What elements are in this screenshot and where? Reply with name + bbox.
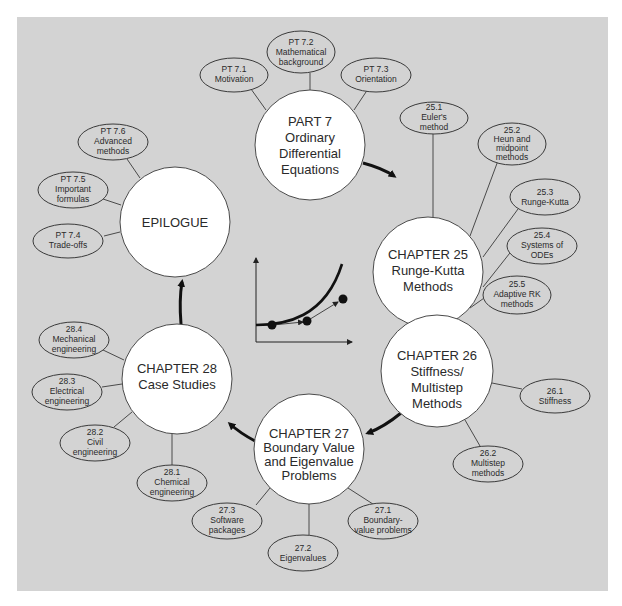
sub-node-pt7-5[interactable]: PT 7.5 Important formulas [38,172,108,208]
sub-node-label: PT 7.2 [289,37,314,47]
sub-node-label: Mathematical [276,47,327,57]
sub-node-label: background [279,57,324,67]
sub-node-label: 25.3 [537,187,554,197]
node-label-line: Methods [403,279,453,294]
sub-node-pt7-2[interactable]: PT 7.2 Mathematical background [267,31,335,73]
sub-node-label: Systems of [521,240,564,250]
ode-part-overview-diagram: PART 7 Ordinary Differential Equations C… [0,0,622,606]
sub-node-27-2[interactable]: 27.2 Eigenvalues [268,535,338,571]
sub-node-label: Stiffness [539,396,571,406]
sub-node-label: engineering [52,344,97,354]
sub-node-label: engineering [150,487,195,497]
node-label-line: Ordinary [285,130,335,145]
main-node-ch25[interactable]: CHAPTER 25 Runge-Kutta Methods [373,217,483,327]
sub-node-label: formulas [57,194,90,204]
sub-node-label: methods [501,299,534,309]
sub-node-label: value problems [354,525,412,535]
sub-node-label: methods [496,152,529,162]
sub-node-label: PT 7.6 [101,126,126,136]
sub-node-label: 28.1 [164,467,181,477]
node-label-line: EPILOGUE [142,215,209,230]
sub-node-label: 28.3 [59,376,76,386]
sub-node-label: Multistep [471,458,505,468]
node-label-line: Runge-Kutta [392,263,466,278]
sub-node-26-1[interactable]: 26.1 Stiffness [520,379,590,413]
sub-node-label: Mechanical [53,334,96,344]
sub-node-label: ODEs [531,250,554,260]
sub-node-pt7-6[interactable]: PT 7.6 Advanced methods [78,124,148,160]
sub-node-label: Civil [87,437,103,447]
node-label-line: CHAPTER 25 [388,247,468,262]
sub-node-label: engineering [73,447,118,457]
sub-node-pt7-3[interactable]: PT 7.3 Orientation [341,58,411,92]
arrow-part7-to-ch25 [363,163,394,176]
sub-node-28-4[interactable]: 28.4 Mechanical engineering [39,322,109,358]
sub-node-label: Euler's [421,112,447,122]
sub-node-label: PT 7.3 [364,64,389,74]
sub-node-label: PT 7.5 [61,174,86,184]
arrow-ch28-to-epilogue [180,282,182,324]
node-label-line: Case Studies [138,377,216,392]
sub-node-27-1[interactable]: 27.1 Boundary- value problems [348,503,418,539]
node-label-line: Stiffness/ [410,364,464,379]
sub-node-label: methods [97,146,130,156]
sub-node-28-3[interactable]: 28.3 Electrical engineering [32,374,102,410]
node-label-line: Multistep [411,380,463,395]
main-node-part7[interactable]: PART 7 Ordinary Differential Equations [255,90,365,200]
main-node-ch26[interactable]: CHAPTER 26 Stiffness/ Multistep Methods [381,315,493,427]
sub-node-25-2[interactable]: 25.2 Heun and midpoint methods [478,123,546,165]
node-label-line: Equations [281,162,339,177]
sub-node-label: packages [209,525,245,535]
sub-node-pt7-1[interactable]: PT 7.1 Motivation [200,58,268,92]
sub-node-label: 28.2 [87,427,104,437]
node-label-line: Methods [412,396,462,411]
node-label-line: CHAPTER 26 [397,348,477,363]
main-node-ch28[interactable]: CHAPTER 28 Case Studies [122,324,232,434]
sub-node-label: 27.3 [219,505,236,515]
sub-node-label: 25.1 [426,102,443,112]
sub-node-label: 25.4 [534,230,551,240]
sub-node-27-3[interactable]: 27.3 Software packages [192,503,262,539]
sub-node-label: Electrical [50,386,85,396]
sub-node-label: PT 7.4 [56,230,81,240]
sub-node-label: methods [472,468,505,478]
sub-node-label: Orientation [355,74,397,84]
sub-node-25-3[interactable]: 25.3 Runge-Kutta [510,179,580,215]
sub-node-label: method [420,122,449,132]
sub-node-label: Chemical [154,477,190,487]
sub-node-pt7-4[interactable]: PT 7.4 Trade-offs [33,224,103,258]
node-label-line: Problems [282,468,337,483]
main-node-ch27[interactable]: CHAPTER 27 Boundary Value and Eigenvalue… [254,394,364,504]
ode-solution-curve-icon [256,258,352,342]
sub-node-label: Advanced [94,136,132,146]
node-label-line: and Eigenvalue [264,454,354,469]
sub-node-25-4[interactable]: 25.4 Systems of ODEs [507,228,577,264]
sub-node-label: Motivation [215,74,254,84]
arrow-ch27-to-ch28 [230,424,255,441]
node-label-line: Boundary Value [263,440,355,455]
main-node-epilogue[interactable]: EPILOGUE [120,167,230,277]
sub-node-label: engineering [45,396,90,406]
sub-node-label: 27.1 [375,505,392,515]
node-label-line: CHAPTER 28 [137,361,217,376]
sub-node-25-5[interactable]: 25.5 Adaptive RK methods [483,276,551,314]
sub-node-label: 25.5 [509,279,526,289]
sub-node-label: PT 7.1 [222,64,247,74]
sub-node-label: Boundary- [363,515,402,525]
sub-node-label: Runge-Kutta [521,197,569,207]
sub-node-26-2[interactable]: 26.2 Multistep methods [453,446,523,482]
node-label-line: PART 7 [288,114,332,129]
node-label-line: CHAPTER 27 [269,426,349,441]
sub-node-label: 26.1 [547,386,564,396]
sub-node-28-1[interactable]: 28.1 Chemical engineering [137,465,207,501]
sub-node-25-1[interactable]: 25.1 Euler's method [400,102,468,134]
sub-node-label: Software [210,515,244,525]
sub-node-label: 27.2 [295,543,312,553]
node-label-line: Differential [279,146,341,161]
sub-node-label: 26.2 [480,448,497,458]
sub-node-label: Trade-offs [49,240,87,250]
sub-node-label: Eigenvalues [280,553,326,563]
sub-node-label: Important [55,184,92,194]
sub-node-28-2[interactable]: 28.2 Civil engineering [60,425,130,461]
sub-node-label: 28.4 [66,324,83,334]
